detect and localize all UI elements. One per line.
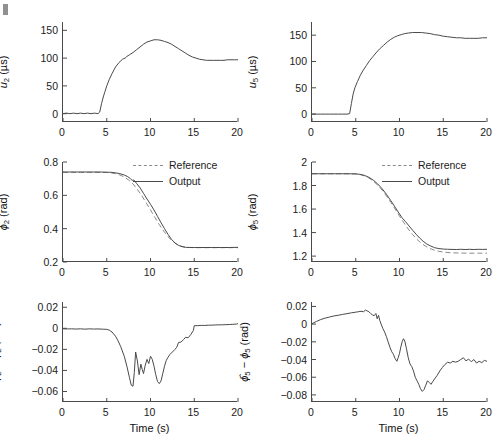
figure-container: 05010015005101520u2 (µs)0501001500510152… xyxy=(0,0,498,444)
xtick-label-phi5-error-2: 10 xyxy=(393,406,405,418)
ytick-label-phi5-error-3: −0.04 xyxy=(265,354,307,366)
ytick-label-phi5-error-5: −0.08 xyxy=(265,389,307,401)
xtick-label-phi5-error-0: 0 xyxy=(308,406,314,418)
ytick-label-phi5-error-0: 0.02 xyxy=(265,300,307,312)
ytick-label-phi5-error-2: −0.02 xyxy=(265,336,307,348)
xtick-label-phi5-error-1: 5 xyxy=(352,406,358,418)
panel-phi5-error: 0.020−0.02−0.04−0.06−0.0805101520ϕ̂5 − ϕ… xyxy=(0,0,498,444)
xtick-label-phi5-error-4: 20 xyxy=(480,406,492,418)
series-phi5-error-phi5-error xyxy=(312,310,487,391)
plot-area-phi5-error xyxy=(311,302,486,402)
xlabel-phi5-error: Time (s) xyxy=(379,422,419,434)
xtick-label-phi5-error-3: 15 xyxy=(436,406,448,418)
ylabel-phi5-error: ϕ̂5 − ϕ5 (rad) xyxy=(238,322,252,382)
ytick-label-phi5-error-4: −0.06 xyxy=(265,371,307,383)
ytick-label-phi5-error-1: 0 xyxy=(265,318,307,330)
